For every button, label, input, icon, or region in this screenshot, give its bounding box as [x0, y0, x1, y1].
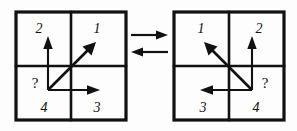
right-label-quadrant-3: 3 [199, 100, 207, 115]
left-panel: 2 1 4 3 ? [16, 12, 126, 120]
right-panel: 1 2 3 4 ? [174, 12, 284, 120]
right-label-quadrant-4: 4 [253, 100, 260, 115]
right-label-quadrant-1: 1 [198, 21, 205, 36]
quadrant-vector-diagram: 2 1 4 3 ? [0, 0, 297, 131]
left-question-mark: ? [32, 75, 39, 91]
left-horizontal-axis-arrow [48, 85, 100, 94]
bidirectional-equivalence-arrows [131, 31, 168, 57]
connector-arrow-left [131, 48, 168, 57]
left-label-quadrant-3: 3 [93, 100, 101, 115]
right-question-mark: ? [262, 75, 269, 91]
connector-arrow-right [131, 31, 168, 40]
left-label-quadrant-4: 4 [41, 100, 48, 115]
diagram-canvas: 2 1 4 3 ? [0, 0, 297, 131]
left-label-quadrant-2: 2 [36, 21, 43, 36]
left-vertical-axis-arrow [43, 36, 52, 90]
left-label-quadrant-1: 1 [94, 21, 101, 36]
right-horizontal-axis-arrow [200, 85, 252, 94]
right-label-quadrant-2: 2 [256, 21, 263, 36]
right-vertical-axis-arrow [247, 36, 256, 90]
